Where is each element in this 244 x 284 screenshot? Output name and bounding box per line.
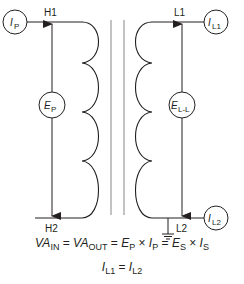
primary-voltage-meter: E P — [39, 92, 65, 118]
l2-label: L2 — [176, 223, 188, 234]
equals: = — [107, 236, 121, 250]
ep-symbol: E — [44, 100, 51, 111]
equals: = — [158, 236, 172, 250]
ip-subscript: P — [14, 22, 19, 31]
equals: = — [115, 260, 129, 274]
primary-coil — [82, 22, 99, 218]
current-equation: IL1 = IL2 — [0, 260, 244, 274]
ep-subscript: P — [51, 105, 56, 114]
l1-label: L1 — [174, 7, 186, 18]
ell-subscript: L-L — [178, 105, 190, 114]
iron-core — [111, 20, 124, 215]
secondary-current-meter-l2: I L2 — [204, 206, 228, 230]
va-in: VA — [35, 236, 50, 250]
il2-sub: L2 — [132, 266, 142, 276]
ip-symbol: I — [10, 17, 13, 28]
il2-subscript: L2 — [212, 218, 221, 227]
primary-winding: I P H1 H2 E P — [3, 7, 99, 234]
ell-symbol: E — [171, 100, 178, 111]
va-out: VA — [73, 236, 88, 250]
h2-label: H2 — [45, 223, 58, 234]
h1-label: H1 — [44, 7, 57, 18]
secondary-coil — [136, 22, 153, 218]
times: × — [135, 236, 149, 250]
secondary-winding: L1 I L1 L2 I L2 E L-L — [136, 7, 229, 239]
va-equation: VAIN = VAOUT = EP × IP = ES × IS — [0, 236, 244, 250]
secondary-current-meter-l1: I L1 — [204, 10, 228, 34]
ep: E — [121, 236, 129, 250]
va-out-sub: OUT — [88, 242, 107, 252]
il1-symbol: I — [208, 17, 211, 28]
es: E — [172, 236, 180, 250]
il1-subscript: L1 — [212, 22, 221, 31]
equals: = — [59, 236, 73, 250]
secondary-voltage-meter: E L-L — [169, 92, 195, 118]
is-sub: S — [203, 242, 209, 252]
times: × — [186, 236, 200, 250]
primary-current-meter: I P — [3, 10, 27, 34]
il2-symbol: I — [208, 213, 211, 224]
il1-sub: L1 — [105, 266, 115, 276]
